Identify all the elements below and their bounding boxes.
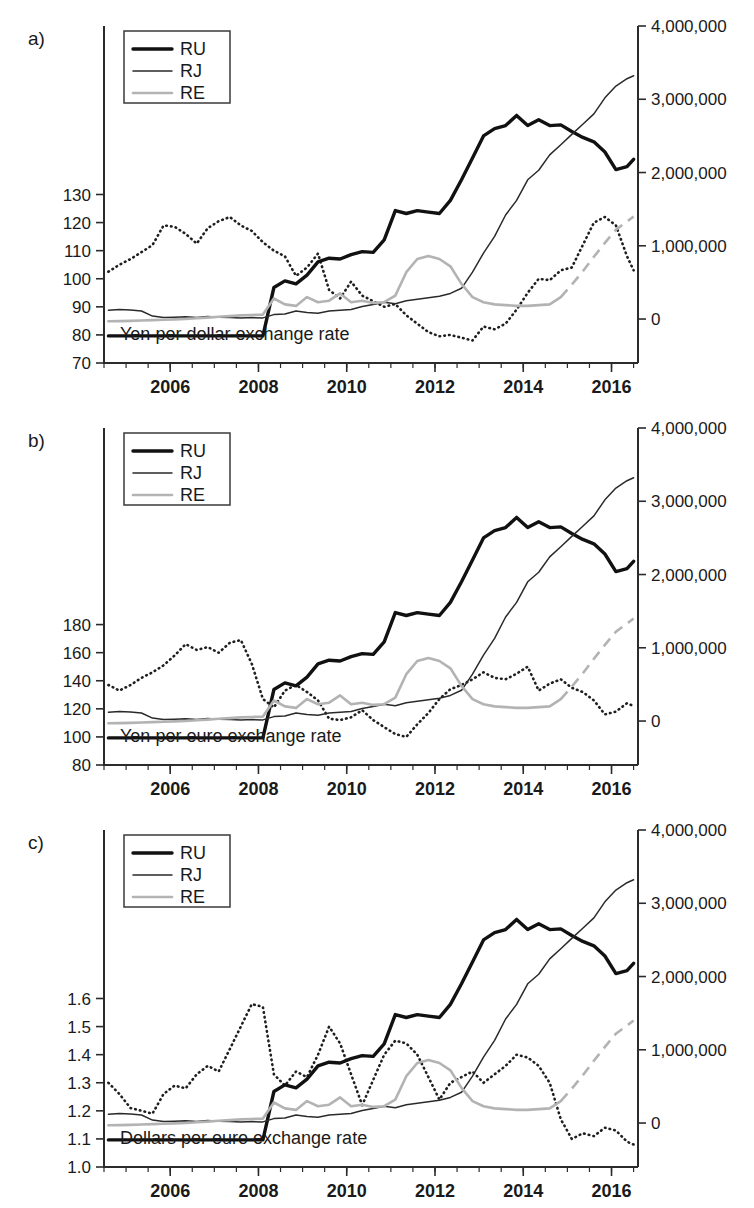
legend-label-ru: RU bbox=[180, 39, 206, 59]
y-right-tick-label: 1,000,000 bbox=[651, 1041, 727, 1060]
x-tick-label: 2012 bbox=[415, 1181, 455, 1201]
panel-b: b)20062008201020122014201680100120140160… bbox=[0, 402, 754, 804]
x-tick-label: 2008 bbox=[238, 779, 278, 799]
series-re-solid bbox=[108, 658, 560, 723]
series-re-solid bbox=[108, 256, 560, 321]
y-right-tick-label: 1,000,000 bbox=[651, 237, 727, 256]
panel-letter: b) bbox=[28, 430, 45, 451]
y-left-tick-label: 90 bbox=[72, 298, 91, 317]
y-right-tick-label: 0 bbox=[651, 310, 660, 329]
y-left-tick-label: 110 bbox=[64, 242, 91, 261]
y-left-tick-label: 140 bbox=[63, 672, 91, 691]
chart-svg-c: c)2006200820102012201420161.01.11.21.31.… bbox=[0, 804, 754, 1206]
legend-label-rj: RJ bbox=[180, 463, 202, 483]
y-left-tick-label: 80 bbox=[72, 326, 91, 345]
y-right-tick-label: 2,000,000 bbox=[651, 164, 727, 183]
y-right-tick-label: 0 bbox=[651, 1114, 660, 1133]
x-tick-label: 2006 bbox=[150, 377, 190, 397]
y-left-tick-label: 1.2 bbox=[67, 1102, 91, 1121]
x-tick-label: 2010 bbox=[327, 377, 367, 397]
y-right-tick-label: 3,000,000 bbox=[651, 90, 727, 109]
x-tick-label: 2016 bbox=[591, 377, 631, 397]
chart-svg-b: b)20062008201020122014201680100120140160… bbox=[0, 402, 754, 804]
x-tick-label: 2006 bbox=[150, 779, 190, 799]
legend-label-ru: RU bbox=[180, 843, 206, 863]
panel-letter: c) bbox=[28, 832, 44, 853]
legend-label-rj: RJ bbox=[180, 865, 202, 885]
y-left-tick-label: 120 bbox=[63, 700, 91, 719]
y-left-tick-label: 1.4 bbox=[67, 1046, 91, 1065]
y-right-tick-label: 2,000,000 bbox=[651, 968, 727, 987]
x-tick-label: 2016 bbox=[591, 1181, 631, 1201]
x-tick-label: 2012 bbox=[415, 377, 455, 397]
y-left-tick-label: 1.5 bbox=[67, 1018, 91, 1037]
x-tick-label: 2010 bbox=[327, 1181, 367, 1201]
y-left-tick-label: 180 bbox=[63, 616, 91, 635]
chart-svg-a: a)20062008201020122014201670809010011012… bbox=[0, 0, 754, 402]
y-right-tick-label: 2,000,000 bbox=[651, 566, 727, 585]
panel-letter: a) bbox=[28, 28, 45, 49]
y-right-tick-label: 4,000,000 bbox=[651, 17, 727, 36]
legend-label-re: RE bbox=[180, 83, 205, 103]
x-tick-label: 2014 bbox=[503, 779, 543, 799]
x-tick-label: 2010 bbox=[327, 779, 367, 799]
y-right-tick-label: 4,000,000 bbox=[651, 821, 727, 840]
legend-label-re: RE bbox=[180, 887, 205, 907]
y-left-tick-label: 1.1 bbox=[67, 1130, 91, 1149]
x-tick-label: 2014 bbox=[503, 377, 543, 397]
panel-caption: Yen per dollar exchange rate bbox=[120, 324, 350, 344]
y-left-tick-label: 70 bbox=[72, 354, 91, 373]
x-tick-label: 2006 bbox=[150, 1181, 190, 1201]
legend-label-rj: RJ bbox=[180, 61, 202, 81]
y-right-tick-label: 3,000,000 bbox=[651, 492, 727, 511]
series-rj bbox=[108, 76, 633, 318]
panel-caption: Yen per euro exchange rate bbox=[120, 726, 342, 746]
y-left-tick-label: 130 bbox=[63, 186, 91, 205]
y-left-tick-label: 1.6 bbox=[67, 990, 91, 1009]
series-re-dashed bbox=[561, 619, 634, 700]
x-tick-label: 2008 bbox=[238, 1181, 278, 1201]
series-exchange-rate bbox=[108, 217, 633, 341]
y-right-tick-label: 1,000,000 bbox=[651, 639, 727, 658]
y-right-tick-label: 4,000,000 bbox=[651, 419, 727, 438]
panel-caption: Dollars per euro exchange rate bbox=[120, 1128, 367, 1148]
y-left-tick-label: 80 bbox=[72, 756, 91, 775]
y-left-tick-label: 100 bbox=[63, 270, 91, 289]
y-left-tick-label: 1.0 bbox=[67, 1158, 91, 1177]
panel-c: c)2006200820102012201420161.01.11.21.31.… bbox=[0, 804, 754, 1206]
y-left-tick-label: 120 bbox=[63, 214, 91, 233]
legend-label-ru: RU bbox=[180, 441, 206, 461]
legend-label-re: RE bbox=[180, 485, 205, 505]
y-right-tick-label: 3,000,000 bbox=[651, 894, 727, 913]
x-tick-label: 2014 bbox=[503, 1181, 543, 1201]
x-tick-label: 2016 bbox=[591, 779, 631, 799]
y-right-tick-label: 0 bbox=[651, 712, 660, 731]
series-re-dashed bbox=[561, 217, 634, 298]
series-re-solid bbox=[108, 1060, 560, 1125]
x-tick-label: 2008 bbox=[238, 377, 278, 397]
panel-a: a)20062008201020122014201670809010011012… bbox=[0, 0, 754, 402]
y-left-tick-label: 160 bbox=[63, 644, 91, 663]
series-rj bbox=[108, 478, 633, 720]
y-left-tick-label: 100 bbox=[63, 728, 91, 747]
y-left-tick-label: 1.3 bbox=[67, 1074, 91, 1093]
x-tick-label: 2012 bbox=[415, 779, 455, 799]
series-re-dashed bbox=[561, 1021, 634, 1102]
